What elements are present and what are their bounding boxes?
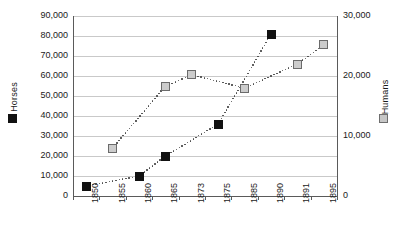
series-connector-dot: [302, 59, 303, 60]
series-connector-dot: [282, 70, 283, 71]
series-connector-dot: [270, 75, 271, 76]
series-connector-dot: [207, 78, 208, 79]
x-axis-tick-label: 1865: [169, 183, 179, 203]
series-connector-dot: [264, 78, 265, 79]
series-connector-dot: [149, 167, 150, 168]
series-connector-dot: [144, 171, 145, 172]
data-point-marker-humans: [108, 144, 117, 153]
series-connector-dot: [129, 128, 130, 129]
gridline: [73, 176, 337, 177]
series-connector-dot: [307, 56, 308, 57]
series-connector-dot: [224, 112, 225, 113]
left-axis-tick-label: 10,000: [16, 170, 68, 180]
x-axis-tick-label: 1873: [196, 183, 206, 203]
data-point-marker-horses: [267, 30, 276, 39]
series-connector-dot: [267, 39, 268, 40]
series-connector-dot: [139, 115, 140, 116]
series-connector-dot: [305, 58, 306, 59]
series-connector-dot: [219, 81, 220, 82]
gridline: [73, 116, 337, 117]
series-connector-dot: [158, 93, 159, 94]
series-connector-dot: [229, 104, 230, 105]
series-connector-dot: [154, 163, 155, 164]
chart-container: Horses Humans 010,00020,00030,00040,0005…: [0, 0, 397, 240]
series-connector-dot: [190, 140, 191, 141]
series-connector-dot: [178, 80, 179, 81]
series-connector-dot: [141, 113, 142, 114]
gridline: [73, 76, 337, 77]
series-connector-dot: [125, 178, 126, 179]
series-connector-dot: [254, 61, 255, 62]
series-connector-dot: [95, 183, 96, 184]
series-connector-dot: [244, 78, 245, 79]
series-connector-dot: [231, 101, 232, 102]
series-connector-dot: [173, 150, 174, 151]
series-connector-dot: [265, 42, 266, 43]
series-connector-dot: [185, 77, 186, 78]
series-connector-dot: [206, 130, 207, 131]
data-point-marker-horses: [135, 172, 144, 181]
series-connector-dot: [193, 138, 194, 139]
series-connector-dot: [112, 180, 113, 181]
series-connector-dot: [209, 128, 210, 129]
series-connector-dot: [118, 140, 119, 141]
left-axis-line: [73, 16, 74, 196]
left-axis-tick-label: 50,000: [16, 90, 68, 100]
right-axis-tick-label: 30,000: [343, 10, 395, 20]
series-connector-dot: [257, 56, 258, 57]
series-connector-dot: [133, 123, 134, 124]
series-connector-dot: [181, 78, 182, 79]
series-connector-dot: [259, 81, 260, 82]
series-connector-dot: [236, 92, 237, 93]
x-axis-tick-label: 1850: [90, 183, 100, 203]
series-connector-dot: [105, 182, 106, 183]
series-connector-dot: [216, 80, 217, 81]
series-connector-dot: [210, 79, 211, 80]
data-point-marker-humans: [293, 60, 302, 69]
x-axis-tickmark: [73, 196, 74, 200]
series-connector-dot: [152, 165, 153, 166]
series-connector-dot: [128, 177, 129, 178]
series-connector-dot: [262, 79, 263, 80]
series-connector-dot: [251, 67, 252, 68]
data-point-marker-humans: [319, 40, 328, 49]
series-connector-dot: [204, 132, 205, 133]
series-connector-dot: [228, 83, 229, 84]
gridline: [73, 56, 337, 57]
series-connector-dot: [285, 69, 286, 70]
series-connector-dot: [176, 149, 177, 150]
series-connector-dot: [148, 105, 149, 106]
data-point-marker-horses: [214, 120, 223, 129]
series-connector-dot: [262, 47, 263, 48]
x-axis-tick-label: 1860: [143, 183, 153, 203]
series-connector-dot: [231, 84, 232, 85]
left-axis-tick-label: 40,000: [16, 110, 68, 120]
series-connector-dot: [252, 64, 253, 65]
series-connector-dot: [242, 81, 243, 82]
series-connector-dot: [197, 76, 198, 77]
left-axis-tick-label: 0: [16, 190, 68, 200]
series-connector-dot: [259, 53, 260, 54]
right-axis-tick-label: 0: [343, 190, 395, 200]
series-connector-dot: [200, 76, 201, 77]
series-connector-dot: [201, 133, 202, 134]
series-connector-dot: [156, 95, 157, 96]
series-connector-dot: [249, 70, 250, 71]
left-axis-tick-label: 20,000: [16, 150, 68, 160]
series-connector-dot: [237, 90, 238, 91]
series-connector-dot: [264, 45, 265, 46]
data-point-marker-horses: [161, 152, 170, 161]
series-connector-dot: [222, 82, 223, 83]
x-axis-tick-label: 1895: [328, 183, 338, 203]
series-connector-dot: [157, 161, 158, 162]
series-connector-dot: [120, 137, 121, 138]
series-connector-dot: [144, 110, 145, 111]
series-connector-dot: [132, 177, 133, 178]
series-connector-dot: [115, 180, 116, 181]
series-connector-dot: [315, 50, 316, 51]
series-connector-dot: [310, 54, 311, 55]
series-connector-dot: [175, 81, 176, 82]
series-connector-dot: [154, 98, 155, 99]
left-axis-tick-label: 80,000: [16, 30, 68, 40]
series-connector-dot: [150, 103, 151, 104]
